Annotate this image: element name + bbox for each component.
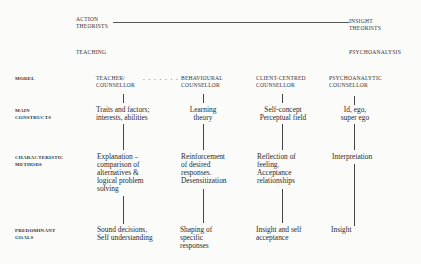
connector-line: [282, 94, 283, 103]
methods-behavioural: Reinforcement of desired responses. Dese…: [181, 153, 227, 185]
model-teacher-counsellor: TEACHER/ COUNSELLOR: [96, 75, 135, 89]
connector-line: [354, 164, 355, 226]
connector-line: [354, 124, 355, 150]
goals-psychoanalytic: Insight: [331, 226, 352, 234]
connector-line: [123, 124, 124, 150]
row-label-main-constructs: MAIN CONSTRUCTS: [15, 107, 51, 121]
dotted-connector: . . . . . . .: [143, 74, 179, 82]
methods-client-centred: Reflection of feeling. Acceptance relati…: [257, 153, 296, 185]
goals-teacher: Sound decisions, Self understanding: [97, 226, 153, 242]
constructs-client-centred: Self-concept Perceptual field: [253, 106, 313, 122]
constructs-behavioural: Learning theory: [180, 106, 226, 122]
connector-line: [282, 189, 283, 223]
constructs-teacher: Traits and factors; interests, abilities: [96, 106, 150, 122]
spectrum-line: [113, 22, 349, 23]
constructs-psychoanalytic: Id, ego, super ego: [334, 106, 376, 122]
psychoanalysis-pole-label: PSYCHOANALYSIS: [349, 49, 401, 56]
teaching-pole-label: TEACHING: [76, 49, 106, 56]
action-theorists-label: ACTION THEORISTS: [76, 16, 108, 30]
connector-line: [354, 96, 355, 105]
connector-line: [203, 124, 204, 150]
connector-line: [203, 189, 204, 223]
row-label-predominant-goals: PREDOMINANT GOALS: [15, 227, 56, 241]
goals-client-centred: Insight and self acceptance: [256, 226, 302, 242]
row-label-model: MODEL: [15, 75, 35, 82]
connector-line: [203, 94, 204, 103]
goals-behavioural: Shaping of specific responses: [180, 226, 212, 250]
model-client-centred-counsellor: CLIENT-CENTRED COUNSELLOR: [256, 75, 306, 89]
connector-line: [282, 124, 283, 150]
model-psychoanalytic-counsellor: PSYCHOANALYTIC COUNSELLOR: [329, 75, 382, 89]
methods-teacher: Explanation – comparison of alternatives…: [97, 153, 144, 193]
model-behavioural-counsellor: BEHAVIOURAL COUNSELLOR: [181, 75, 223, 89]
connector-line: [123, 94, 124, 103]
connector-line: [123, 196, 124, 224]
insight-theorists-label: INSIGHT THEORISTS: [349, 18, 381, 32]
methods-psychoanalytic: Interpretation: [332, 153, 372, 161]
row-label-characteristic-methods: CHARACTERISTIC METHODS: [15, 154, 64, 168]
